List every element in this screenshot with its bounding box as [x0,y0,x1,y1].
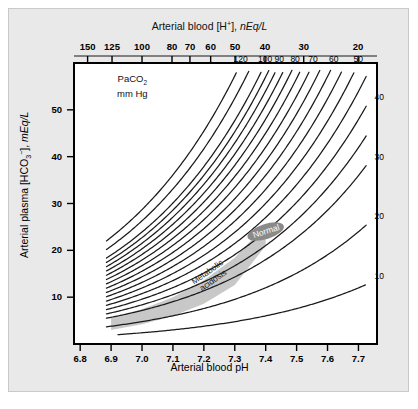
paco2-curve-label-50: 50 [347,54,369,64]
figure-panel: Arterial blood [H+], nEq/L 1501251008070… [8,8,409,392]
paco2-curve-label-70: 70 [302,54,324,64]
paco2-family-label-line1: PaCO2 [117,73,148,88]
paco2-family-label-line2: mm Hg [117,88,148,100]
paco2-curve-label-40: 40 [368,92,390,102]
paco2-curve-label-10: 10 [368,271,390,281]
paco2-curve-label-60: 60 [323,54,345,64]
paco2-family-label: PaCO2 mm Hg [117,73,148,100]
paco2-curve-label-30: 30 [368,152,390,162]
paco2-curve-label-120: 120 [230,54,252,64]
paco2-curve-label-20: 20 [368,211,390,221]
nomogram-plot [9,9,410,393]
